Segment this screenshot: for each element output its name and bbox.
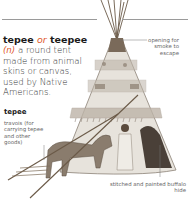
headword: tepee (3, 34, 34, 45)
dictionary-entry: tepee or teepee (n) a round tent made fr… (3, 34, 93, 98)
divider-left (2, 19, 97, 20)
tepee-illustration (0, 0, 188, 205)
definition: (n) a round tent made from animal skins … (3, 45, 93, 98)
illustration-label: tepee (4, 108, 27, 116)
callout-travois: travois (for carrying tepee and other go… (4, 120, 44, 146)
headword-line: tepee or teepee (3, 34, 93, 45)
divider-right (122, 19, 188, 20)
callout-hide: stitched and painted buffalo hide (108, 181, 186, 194)
or-connector: or (37, 34, 47, 45)
headword-variant: teepee (50, 34, 87, 45)
callout-opening: opening for smoke to escape (139, 37, 179, 56)
definition-text: a round tent made from animal skins or c… (3, 45, 82, 97)
part-of-speech: (n) (3, 45, 15, 55)
